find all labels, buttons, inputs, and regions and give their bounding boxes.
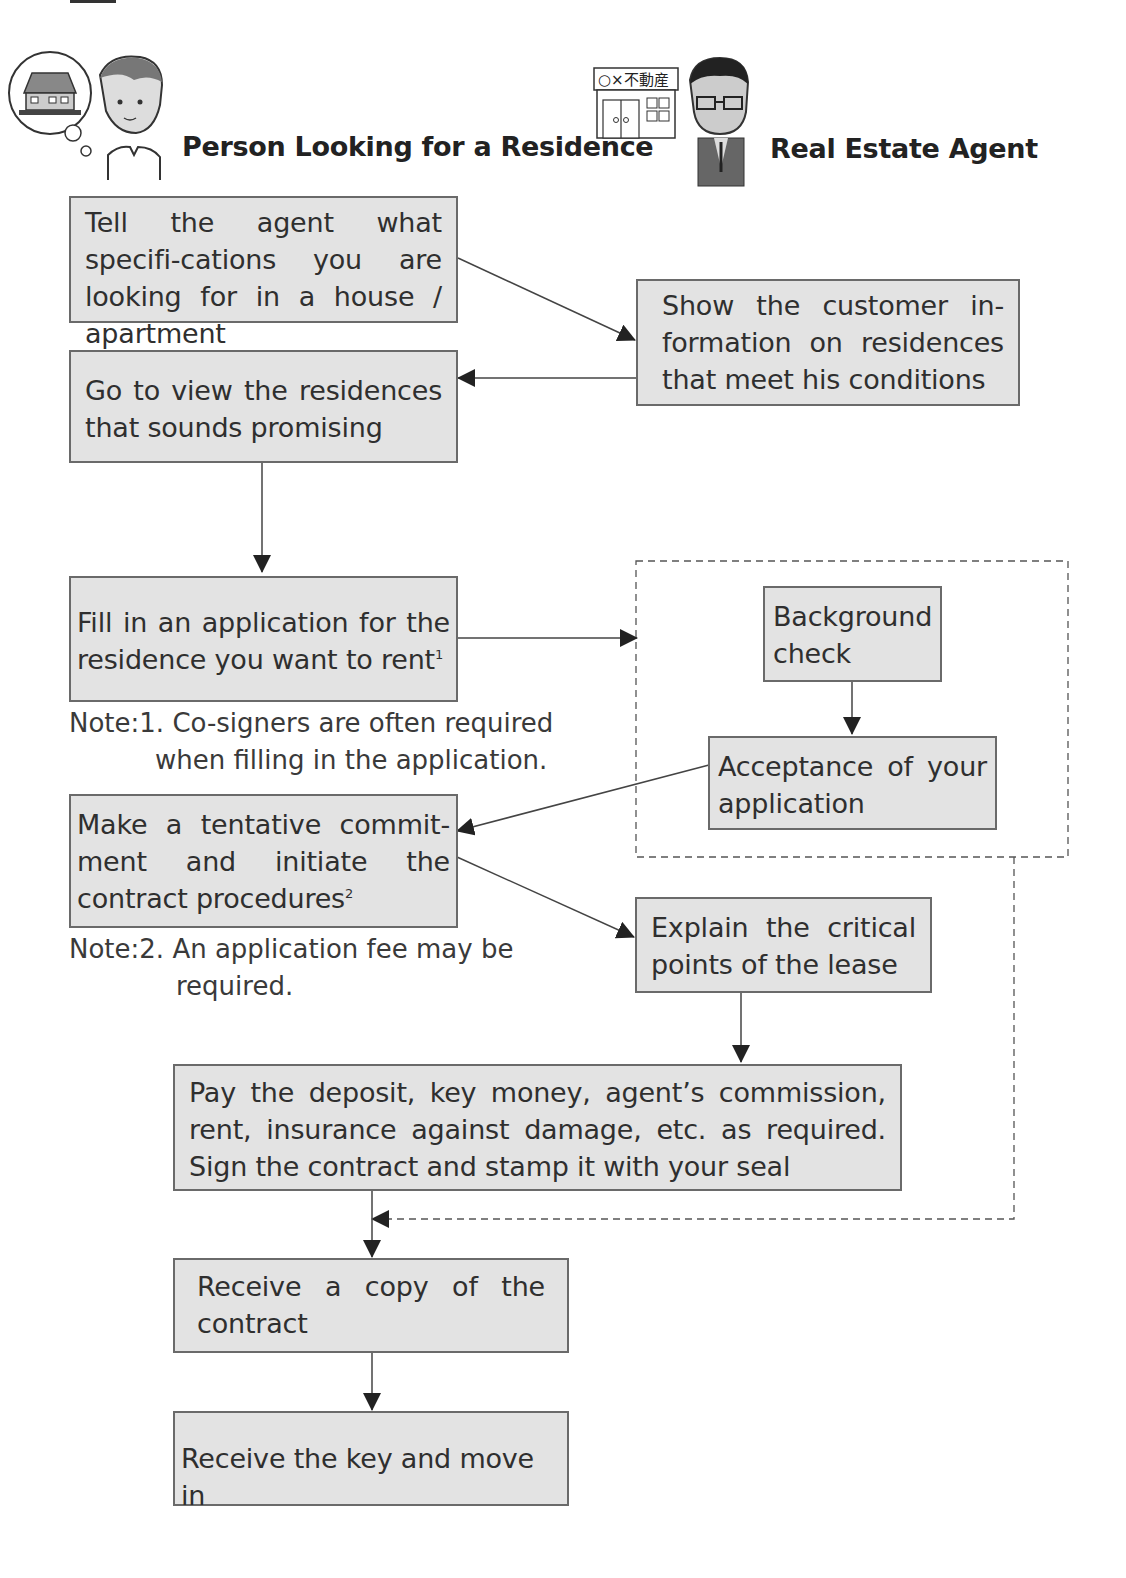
note-1-line-2: when filling in the application.	[155, 742, 547, 779]
arrow-commit-to-explain	[457, 857, 634, 937]
footnote-marker-2: 2	[345, 886, 353, 901]
step-receive-copy: Receive a copy of the contract	[173, 1258, 569, 1353]
note-2-line-1: Note:2. An application fee may be	[69, 931, 513, 968]
step-tentative-commitment-text: Make a tentative commit-ment and initiat…	[77, 809, 450, 914]
note-2-line-2: required.	[176, 968, 293, 1005]
step-tell-agent: Tell the agent what specifi-cations you …	[69, 196, 458, 323]
step-acceptance: Acceptance of your application	[708, 736, 997, 830]
arrow-tell-to-show	[458, 258, 635, 340]
step-show-info: Show the customer in-formation on reside…	[636, 279, 1020, 406]
step-tentative-commitment: Make a tentative commit-ment and initiat…	[69, 794, 458, 928]
step-background-check: Background check	[763, 586, 942, 682]
step-go-view: Go to view the residences that sounds pr…	[69, 350, 458, 463]
step-explain-lease: Explain the critical points of the lease	[635, 897, 932, 993]
step-fill-application-text: Fill in an application for the residence…	[77, 607, 450, 675]
note-1-line-1: Note:1. Co-signers are often required	[69, 705, 553, 742]
step-receive-key: Receive the key and move in	[173, 1411, 569, 1506]
step-fill-application: Fill in an application for the residence…	[69, 576, 458, 702]
step-pay-deposit: Pay the deposit, key money, agent’s comm…	[173, 1064, 902, 1191]
footnote-marker-1: 1	[435, 647, 443, 662]
